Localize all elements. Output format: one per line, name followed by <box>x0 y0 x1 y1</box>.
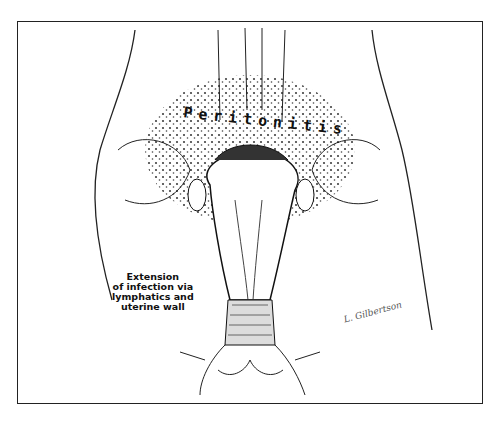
anatomical-illustration <box>0 0 500 421</box>
caption-text: Extension of infection via lymphatics an… <box>112 272 194 312</box>
